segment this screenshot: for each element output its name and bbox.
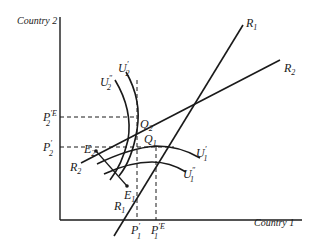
p2e-tick-label: P′E2 <box>42 109 57 128</box>
q2-label: Q2 <box>140 117 153 133</box>
u1-prime-label: U′1 <box>196 145 207 163</box>
r2-right-label: R2 <box>283 61 295 77</box>
e1-label: E1 <box>123 188 135 204</box>
diagram-canvas: Country 2 Country 1 R1 R2 R2 R1 U′2 U″2 … <box>0 0 320 248</box>
p1-tick-label: P′1 <box>130 222 141 241</box>
y-axis-label: Country 2 <box>17 15 57 26</box>
r1-top-label: R1 <box>245 16 257 32</box>
x-axis-label: Country 1 <box>254 217 294 228</box>
q1-label: Q1 <box>144 132 157 148</box>
u2-double-prime-label: U″2 <box>100 74 113 92</box>
e2-label: E2 <box>83 142 95 158</box>
p1e-tick-label: P′E1 <box>150 222 165 241</box>
p2-tick-label: P′2 <box>42 139 53 158</box>
r2-left-label: R2 <box>69 160 81 176</box>
u1-double-prime-label: U″1 <box>183 166 196 184</box>
reaction-curve-r1 <box>114 25 243 236</box>
u2-prime-label: U′2 <box>118 60 129 78</box>
